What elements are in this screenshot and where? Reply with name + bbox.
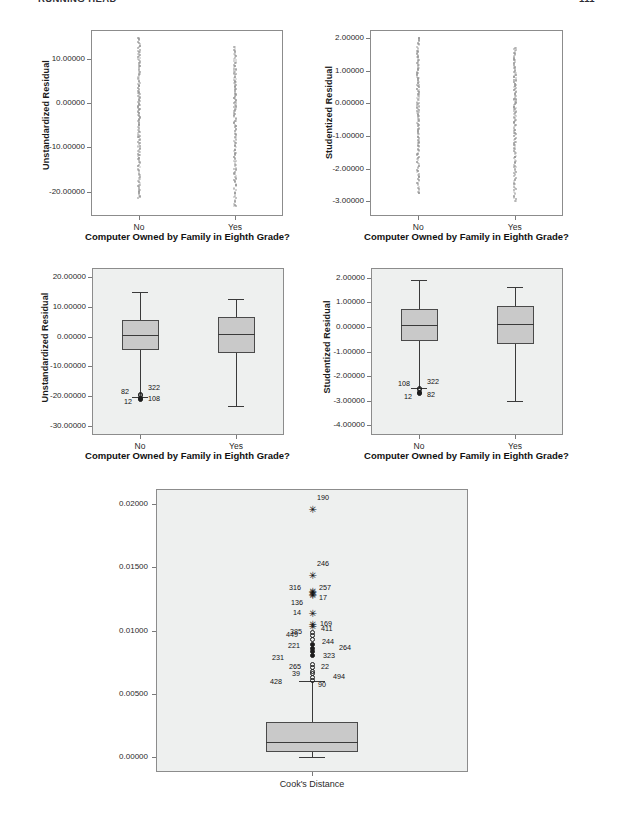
y-tick-label: 2.00000 <box>322 34 364 42</box>
y-tick-label: -2.00000 <box>322 165 364 173</box>
scatter-point <box>235 168 237 170</box>
y-tick-label: 10.00000 <box>44 303 86 311</box>
boxplot-outlier-star: ✳ <box>309 573 317 578</box>
y-tick-label: 0.00500 <box>100 690 148 698</box>
y-axis-title: Studentized Residual <box>324 25 334 200</box>
scatter-point <box>235 68 237 70</box>
y-tick-label: -10.00000 <box>44 362 86 370</box>
boxplot-whisker-cap-upper <box>132 292 148 293</box>
x-tick-mark <box>140 435 141 439</box>
x-tick-mark <box>419 435 420 439</box>
y-tick-mark <box>88 277 92 278</box>
x-tick-mark <box>236 435 237 439</box>
scatter-point <box>235 139 237 141</box>
y-tick-mark <box>367 352 371 353</box>
x-tick-label: No <box>95 442 185 451</box>
y-tick-label: 2.00000 <box>323 274 365 282</box>
boxplot-outlier-label: 264 <box>339 644 351 651</box>
scatter-point <box>514 156 516 158</box>
boxplot-outlier-label: 22 <box>321 663 329 670</box>
x-tick-mark <box>418 216 419 220</box>
boxplot-outlier-label: 90 <box>318 681 326 688</box>
chart-studentized-residual-scatter: Studentized Residual Computer Owned by F… <box>310 0 619 250</box>
boxplot-outlier-label: 136 <box>291 599 303 606</box>
x-tick-label: Yes <box>190 223 280 232</box>
boxplot-outlier-label: 322 <box>427 378 439 385</box>
scatter-point <box>139 104 141 106</box>
x-tick-label: Yes <box>470 442 560 451</box>
boxplot-outlier-label: 39 <box>292 670 300 677</box>
scatter-point <box>417 157 419 159</box>
y-tick-mark <box>367 401 371 402</box>
y-tick-mark <box>152 757 156 758</box>
y-tick-mark <box>366 103 370 104</box>
plot-frame <box>371 268 563 435</box>
y-tick-mark <box>88 396 92 397</box>
boxplot-outlier-label: 257 <box>319 584 331 591</box>
y-tick-label: -1.00000 <box>322 132 364 140</box>
boxplot-outlier-label: 82 <box>121 388 129 395</box>
scatter-point <box>513 148 515 150</box>
y-tick-mark <box>88 366 92 367</box>
boxplot-outlier-label: 494 <box>333 673 345 680</box>
y-tick-label: 1.00000 <box>322 67 364 75</box>
boxplot-outlier-label: 411 <box>321 625 332 632</box>
scatter-point <box>515 152 517 154</box>
scatter-point <box>514 132 516 134</box>
boxplot-outlier-label: 244 <box>322 638 334 645</box>
boxplot-whisker-lower <box>515 344 516 401</box>
scatter-point <box>515 166 517 168</box>
boxplot-median-line <box>266 742 358 743</box>
y-tick-mark <box>88 426 92 427</box>
plot-frame <box>91 30 283 216</box>
scatter-point <box>515 141 517 143</box>
y-tick-mark <box>152 631 156 632</box>
y-tick-mark <box>367 425 371 426</box>
boxplot-whisker-upper <box>312 681 313 722</box>
boxplot-outlier-label: 108 <box>398 380 410 387</box>
y-tick-mark <box>366 136 370 137</box>
x-tick-mark <box>235 216 236 220</box>
scatter-point <box>514 52 516 54</box>
y-tick-mark <box>152 694 156 695</box>
scatter-point <box>514 183 516 185</box>
x-axis-title: Computer Owned by Family in Eighth Grade… <box>339 231 594 242</box>
boxplot-outlier-marker <box>417 391 422 396</box>
boxplot-outlier-star: ✳ <box>309 507 317 512</box>
y-tick-mark <box>367 302 371 303</box>
boxplot-median-line <box>497 324 534 325</box>
scatter-point <box>139 195 141 197</box>
boxplot-outlier-label: 14 <box>293 609 301 616</box>
scatter-point <box>139 145 141 147</box>
scatter-point <box>418 102 420 104</box>
y-tick-label: 0.00000 <box>322 99 364 107</box>
boxplot-outlier-marker <box>138 397 143 402</box>
scatter-point <box>234 133 236 135</box>
boxplot-median-line <box>401 325 438 326</box>
scatter-point <box>234 149 236 151</box>
scatter-point <box>417 56 419 58</box>
y-tick-label: -2.00000 <box>323 372 365 380</box>
boxplot-outlier-label: 428 <box>270 678 282 685</box>
plot-frame <box>92 268 284 435</box>
scatter-point <box>139 161 141 163</box>
scatter-point <box>235 164 237 166</box>
boxplot-outlier-star: ✳ <box>309 593 317 598</box>
scatter-point <box>514 129 516 131</box>
scatter-point <box>514 47 516 49</box>
boxplot-whisker-upper <box>419 280 420 308</box>
y-tick-mark <box>87 192 91 193</box>
scatter-point <box>417 79 419 81</box>
boxplot-outlier-label: 190 <box>317 494 329 501</box>
boxplot-whisker-cap-lower <box>299 757 325 758</box>
y-tick-label: 0.00000 <box>44 333 86 341</box>
scatter-point <box>139 174 141 176</box>
y-tick-label: 0.01500 <box>100 563 148 571</box>
y-tick-label: -4.00000 <box>323 421 365 429</box>
y-tick-mark <box>366 169 370 170</box>
boxplot-median-line <box>218 334 255 335</box>
scatter-point <box>418 86 420 88</box>
boxplot-outlier-label: 449 <box>286 631 298 638</box>
boxplot-outlier-star: ✳ <box>309 624 317 629</box>
y-tick-label: -30.00000 <box>44 422 86 430</box>
